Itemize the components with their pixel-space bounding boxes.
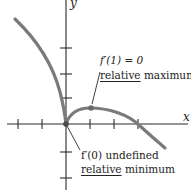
- max-annotation-relative: relative: [100, 69, 141, 81]
- min-annotation-relative: relative: [81, 163, 122, 175]
- function-curve-right-branch: [66, 108, 165, 148]
- min-annotation-label: relative minimum: [81, 164, 175, 175]
- x-axis-label: x: [183, 111, 190, 123]
- max-annotation-type: maximum: [141, 69, 191, 81]
- min-leader-line: [67, 126, 80, 150]
- max-leader-line: [92, 72, 100, 104]
- max-annotation-label: relative maximum: [100, 70, 191, 81]
- max-annotation-condition: f′(1) = 0: [100, 55, 143, 66]
- graph-figure: y x f′(1) = 0 relative maximum f′(0) und…: [0, 0, 191, 193]
- relative-minimum-point: [63, 121, 69, 127]
- relative-maximum-point: [88, 105, 94, 111]
- min-annotation-condition: f′(0) undefined: [81, 150, 159, 161]
- min-annotation-type: minimum: [122, 163, 175, 175]
- y-axis-label: y: [70, 0, 77, 9]
- function-curve-left-branch: [15, 19, 66, 124]
